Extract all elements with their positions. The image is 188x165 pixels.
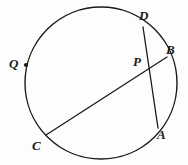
chord-line-d-a — [143, 27, 158, 128]
main-circle — [25, 7, 177, 159]
point-label-d: D — [139, 9, 148, 22]
point-label-c: C — [32, 139, 41, 152]
point-label-b: B — [166, 43, 175, 56]
point-label-a: A — [157, 128, 166, 141]
point-marker-q-icon — [24, 63, 28, 67]
point-label-q: Q — [9, 57, 18, 70]
geometry-diagram: D B P Q A C — [0, 0, 188, 165]
point-label-p: P — [133, 55, 141, 68]
